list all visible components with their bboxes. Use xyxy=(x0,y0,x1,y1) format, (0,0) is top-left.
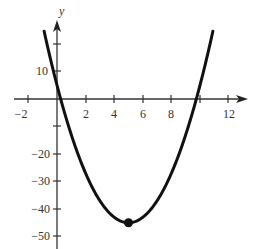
x-tick-label: 4 xyxy=(111,107,117,121)
x-tick-label: −2 xyxy=(15,107,28,121)
y-tick-label: −50 xyxy=(31,229,50,243)
y-tick-label: −20 xyxy=(31,147,50,161)
x-tick-label: 12 xyxy=(223,107,235,121)
y-tick-label: −40 xyxy=(31,202,50,216)
x-tick-label: 2 xyxy=(83,107,89,121)
y-tick-label: 10 xyxy=(36,64,48,78)
vertex-point xyxy=(124,218,133,227)
y-axis-label: y xyxy=(58,4,65,18)
x-tick-label: 6 xyxy=(140,107,146,121)
y-tick-label: −30 xyxy=(31,174,50,188)
x-tick-label: 8 xyxy=(168,107,174,121)
parabola-chart: y −2 2 4 6 8 12 10 −20 −30 −40 −50 xyxy=(0,0,259,249)
parabola-curve xyxy=(44,31,213,222)
